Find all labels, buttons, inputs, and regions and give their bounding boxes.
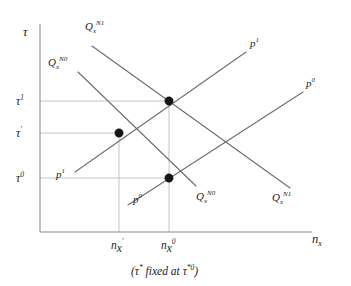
caption-fixed-at-text: fixed at (146, 265, 181, 278)
intersection-upper (165, 97, 173, 105)
y-axis-label: τ (23, 25, 28, 39)
label-q-n1-top-sub: x (92, 27, 97, 35)
y-tick-tau1: τ1 (16, 93, 24, 107)
x-tick-nx-prime: nx′ (111, 237, 124, 254)
label-q-n1-top-base: Q (85, 20, 93, 32)
intersection-lower (165, 174, 173, 182)
label-p0-inner-sup: 0 (139, 192, 143, 200)
x-tick-nx0-sup: 0 (172, 237, 176, 246)
label-q-n1-bottom-sup: N1 (282, 190, 291, 198)
gridlines (40, 101, 169, 232)
label-q-n1-top: QxN1 (85, 19, 104, 35)
label-q-n0-bottom-base: Q (196, 190, 204, 202)
label-q-n0-bottom: QxN0 (196, 189, 216, 205)
x-tick-nx-prime-sup: ′ (122, 237, 124, 246)
label-q-n1-bottom: QxN1 (272, 190, 291, 206)
label-q-n0-top-sub: x (55, 63, 60, 71)
y-tick-tau-prime: τ′ (16, 125, 22, 139)
x-tick-nx0: nx0 (161, 237, 176, 254)
curves (75, 46, 303, 205)
y-tick-tau0-sup: 0 (20, 170, 24, 179)
x-axis-label-sub: x (317, 239, 322, 248)
intersection-middle (115, 129, 123, 137)
label-p1-inner-sup: 1 (62, 167, 66, 175)
label-p1-right: p1 (249, 36, 259, 49)
figure-caption: (τ* fixed at τ*0) (131, 263, 198, 278)
curve-p1 (75, 52, 246, 172)
label-q-n0-top: QxN0 (48, 55, 68, 71)
curve-p0 (128, 92, 303, 205)
label-q-n1-top-sup: N1 (95, 19, 104, 27)
label-q-n1-bottom-sub: x (279, 198, 284, 206)
caption-close-paren: ) (193, 265, 198, 278)
y-tick-tau-prime-sup: ′ (20, 125, 22, 134)
label-q-n1-bottom-base: Q (272, 191, 280, 203)
y-tick-tau0: τ0 (16, 170, 24, 184)
label-q-n0-top-sup: N0 (58, 55, 68, 63)
economics-diagram-figure: τ nx τ1 τ′ τ0 nx′ nx0 QxN1 QxN0 QxN0 QxN… (0, 0, 351, 286)
curve-q-n1 (92, 46, 290, 188)
label-q-n0-top-base: Q (48, 56, 56, 68)
diagram-canvas: τ nx τ1 τ′ τ0 nx′ nx0 QxN1 QxN0 QxN0 QxN… (0, 0, 351, 286)
label-p1-right-sup: 1 (256, 36, 260, 44)
label-p0-right-sup: 0 (312, 76, 316, 84)
y-tick-tau1-sup: 1 (20, 93, 24, 102)
label-q-n0-bottom-sub: x (203, 197, 208, 205)
label-q-n0-bottom-sup: N0 (206, 189, 216, 197)
x-axis-label: nx (312, 232, 322, 248)
label-p0-inner: p0 (132, 192, 143, 205)
label-p0-right: p0 (305, 76, 316, 89)
